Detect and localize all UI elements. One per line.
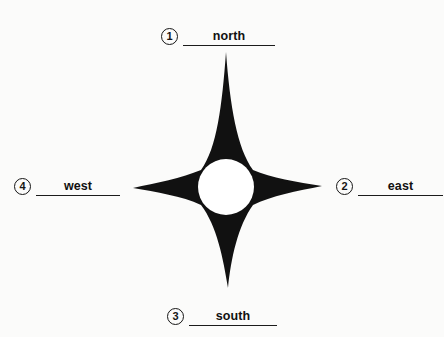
compass-diagram: 1 north 2 east 3 south 4 west — [0, 0, 444, 337]
callout-west: 4 west — [14, 170, 120, 196]
callout-number-2: 2 — [336, 178, 353, 195]
callout-rule-south: south — [189, 302, 277, 326]
callout-label-south: south — [189, 309, 277, 323]
callout-underline-south — [189, 325, 277, 326]
callout-number-1: 1 — [161, 28, 178, 45]
callout-label-north: north — [183, 29, 275, 43]
callout-rule-west: west — [36, 172, 120, 196]
callout-label-west: west — [36, 179, 120, 193]
star-center-circle — [198, 159, 254, 215]
callout-label-east: east — [358, 179, 443, 193]
callout-underline-east — [358, 195, 443, 196]
callout-north: 1 north — [161, 20, 275, 46]
callout-number-4: 4 — [14, 178, 31, 195]
callout-rule-north: north — [183, 22, 275, 46]
callout-east: 2 east — [336, 170, 443, 196]
callout-number-3: 3 — [167, 308, 184, 325]
callout-south: 3 south — [167, 300, 277, 326]
callout-rule-east: east — [358, 172, 443, 196]
callout-underline-west — [36, 195, 120, 196]
compass-star-icon — [125, 44, 330, 296]
